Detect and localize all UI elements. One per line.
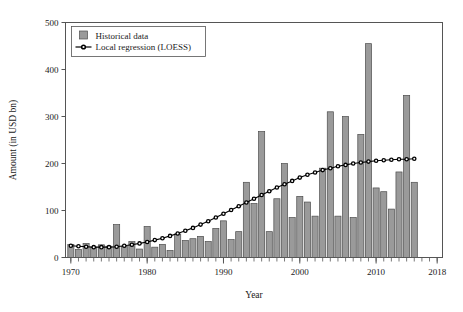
loess-marker-center [268,190,270,192]
loess-marker-center [337,165,339,167]
y-tick-label: 400 [45,65,59,75]
y-axis-title: Amount (in USD bn) [8,100,19,181]
loess-marker-center [116,246,118,248]
loess-marker-center [253,198,255,200]
loess-marker-center [345,164,347,166]
loess-marker-center [352,163,354,165]
bar [373,188,379,258]
bar [75,250,81,258]
loess-marker-center [375,160,377,162]
legend-label-historical-data: Historical data [96,31,149,41]
loess-marker-center [284,183,286,185]
chart-legend: Historical dataLocal regression (LOESS) [72,27,206,57]
loess-marker-center [276,186,278,188]
loess-marker-center [322,169,324,171]
bar [312,216,318,257]
loess-marker-center [139,242,141,244]
loess-marker-center [306,174,308,176]
bar [381,192,387,258]
loess-marker-center [161,237,163,239]
loess-marker-center [123,245,125,247]
bar [167,250,173,257]
loess-marker-center [398,158,400,160]
loess-marker-center [413,158,415,160]
bar [152,247,158,257]
bar [190,239,196,258]
loess-marker-center [383,159,385,161]
y-tick-label: 500 [45,18,59,28]
loess-marker-center [154,239,156,241]
bar [136,249,142,257]
loess-marker-center [108,246,110,248]
loess-marker-center [406,158,408,160]
y-tick-label: 200 [45,159,59,169]
chart-container: 0100200300400500 19701980199020002010201… [0,0,463,312]
bar [327,112,333,258]
bar [213,228,219,257]
loess-marker-center [70,245,72,247]
bar [289,218,295,258]
bar [243,182,249,257]
bar [304,202,310,257]
loess-marker-center [207,220,209,222]
loess-marker-center [93,246,95,248]
bar [251,203,257,257]
loess-marker-center [367,161,369,163]
loess-marker-center [77,245,79,247]
loess-marker-center [291,180,293,182]
x-tick-label: 2000 [291,267,310,277]
loess-marker-center [184,230,186,232]
bar [404,95,410,257]
bars-layer [68,44,418,258]
bar [281,164,287,258]
x-tick-label: 2018 [428,267,447,277]
loess-marker-center [390,159,392,161]
x-axis: 197019801990200020102018 [62,258,447,277]
loess-marker-center [215,217,217,219]
bar [343,117,349,258]
bar [320,168,326,257]
x-tick-label: 1970 [62,267,81,277]
bar [358,134,364,257]
x-tick-label: 1990 [214,267,233,277]
loess-marker-center [222,213,224,215]
bar [182,241,188,258]
bar [350,218,356,258]
loess-marker-center [238,205,240,207]
loess-marker-center [100,246,102,248]
loess-marker-center [146,241,148,243]
bar [266,232,272,258]
loess-marker-center [192,227,194,229]
bar [220,221,226,258]
y-tick-label: 100 [45,206,59,216]
loess-line-layer [69,157,417,250]
bar [198,236,204,257]
bar [388,209,394,257]
y-tick-label: 300 [45,112,59,122]
bar [396,172,402,258]
loess-marker-center [200,224,202,226]
bar [228,240,234,258]
x-axis-title: Year [245,290,263,300]
bar [236,232,242,258]
bar [297,196,303,257]
bar [114,225,120,258]
loess-marker-center [360,162,362,164]
y-tick-label: 0 [54,253,59,263]
legend-swatch-historical-data [80,31,88,39]
loess-marker-center [230,209,232,211]
bar [335,216,341,257]
x-tick-label: 1980 [138,267,157,277]
loess-marker-center [299,177,301,179]
loess-marker-center [314,171,316,173]
loess-marker-center [261,194,263,196]
bar [274,199,280,258]
bar [205,242,211,258]
legend-label-loess: Local regression (LOESS) [96,42,191,52]
x-tick-label: 2010 [367,267,386,277]
bar [159,244,165,257]
bar [411,182,417,257]
loess-marker-center [131,244,133,246]
bar-chart-svg: 0100200300400500 19701980199020002010201… [0,0,463,312]
loess-marker-center [329,167,331,169]
